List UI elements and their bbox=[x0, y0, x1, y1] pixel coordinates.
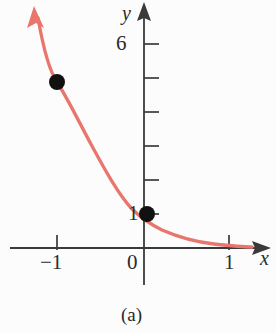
y-tick-label-1: 1 bbox=[128, 203, 139, 224]
data-point-0-1 bbox=[139, 206, 155, 222]
figure-container: y x 6 1 −1 0 1 (a) bbox=[0, 0, 276, 334]
x-tick-label-minus1: −1 bbox=[40, 252, 62, 273]
y-tick-label-6: 6 bbox=[116, 33, 127, 54]
plot-svg bbox=[0, 0, 276, 334]
data-point-minus1-5 bbox=[49, 74, 65, 90]
x-tick-label-1: 1 bbox=[224, 252, 235, 273]
figure-caption: (a) bbox=[121, 305, 142, 324]
x-axis-label: x bbox=[260, 248, 269, 268]
y-axis-label: y bbox=[122, 3, 131, 23]
x-tick-label-0: 0 bbox=[127, 252, 138, 273]
curve-arrow-icon bbox=[27, 6, 44, 28]
